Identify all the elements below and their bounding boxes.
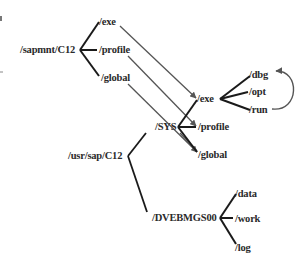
sapmnt-branches: [80, 22, 99, 76]
node-inst-work: /work: [235, 213, 260, 225]
node-sys-exe: /exe: [197, 93, 214, 105]
directory-tree-diagram: /sapmnt/C12 /exe /profile /global /usr/s…: [0, 0, 304, 264]
node-inst-data: /data: [235, 188, 257, 200]
node-instance: /DVEBMGS00: [152, 212, 217, 224]
node-sys: /SYS: [155, 121, 176, 133]
node-sapmnt-global: /global: [101, 72, 130, 84]
node-sys-global: /global: [198, 149, 227, 161]
curved-arrow-run-to-dbg: [272, 71, 294, 109]
exe-branches: [220, 76, 250, 110]
node-sys-profile: /profile: [198, 121, 229, 133]
node-sapmnt-profile: /profile: [99, 44, 130, 56]
usrsap-branches: [128, 133, 147, 212]
node-exe-opt: /opt: [249, 86, 266, 98]
instance-branches: [220, 194, 236, 244]
node-usrsap: /usr/sap/C12: [68, 150, 122, 162]
sys-branches: [178, 100, 197, 152]
node-sapmnt-exe: /exe: [99, 16, 116, 28]
node-sapmnt: /sapmnt/C12: [20, 44, 75, 56]
link-arrows: [120, 26, 197, 152]
node-inst-log: /log: [235, 242, 251, 254]
node-exe-dbg: /dbg: [249, 69, 268, 81]
node-exe-run: /run: [249, 104, 267, 116]
edge-artifact: [0, 16, 2, 21]
